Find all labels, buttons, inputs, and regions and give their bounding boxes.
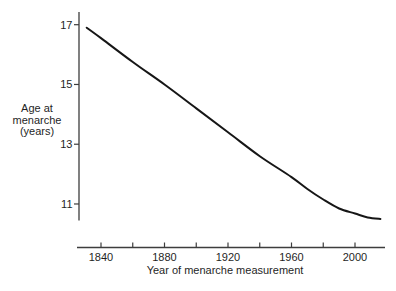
x-tick-label: 2000 bbox=[343, 251, 367, 263]
x-tick-label: 1920 bbox=[216, 251, 240, 263]
x-axis-title: Year of menarche measurement bbox=[75, 265, 375, 277]
menarche-trend-figure: 1715131118401880192019602000 Age at mena… bbox=[0, 0, 396, 291]
y-tick-label: 17 bbox=[60, 19, 72, 31]
x-tick-label: 1840 bbox=[89, 251, 113, 263]
y-axis-title-line-1: Age at bbox=[0, 103, 74, 115]
x-tick-label: 1960 bbox=[279, 251, 303, 263]
y-tick-label: 11 bbox=[61, 198, 72, 210]
menarche-trend-curve bbox=[87, 28, 381, 219]
y-tick-label: 13 bbox=[60, 138, 72, 150]
y-axis-title-line-3: (years) bbox=[0, 126, 74, 138]
y-axis-title: Age at menarche (years) bbox=[0, 103, 74, 138]
y-tick-label: 15 bbox=[60, 78, 72, 90]
x-tick-label: 1880 bbox=[152, 251, 176, 263]
chart-canvas: 1715131118401880192019602000 bbox=[0, 0, 396, 291]
